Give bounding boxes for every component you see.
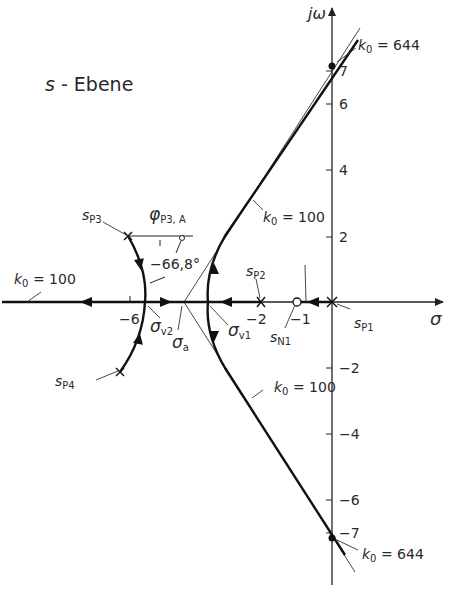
- k0-var: k: [14, 271, 22, 287]
- pole-sp4: [116, 368, 124, 376]
- k0-value: = 644: [372, 37, 419, 53]
- label-sigma-v1: σv1: [228, 322, 251, 341]
- label-sp1: sP1: [354, 316, 374, 333]
- tick-imag-neg6: −6: [339, 493, 360, 507]
- sigma-v1-var: σ: [228, 320, 239, 340]
- tick-imag-2: 2: [339, 230, 348, 244]
- label-departure-angle-symbol: φP3, A: [149, 206, 186, 225]
- zero-sn1: [293, 298, 301, 306]
- tick-imag-neg7: −7: [339, 526, 360, 540]
- title-variable: s: [45, 73, 55, 95]
- label-sp3: sP3: [82, 208, 102, 225]
- label-k0-644-lower: k0 = 644: [362, 547, 424, 564]
- label-sp2-sub: P2: [253, 270, 265, 281]
- sigma-v1-sub: v1: [239, 330, 251, 341]
- label-sigma-v2: σv2: [150, 318, 173, 337]
- label-departure-angle-value: −66,8°: [150, 257, 200, 271]
- sigma-a-var: σ: [172, 332, 183, 352]
- tick-imag-6: 6: [339, 97, 348, 111]
- label-sn1-sub: N1: [277, 336, 291, 347]
- locus-branches: [120, 40, 358, 555]
- imag-axis-label: jω: [308, 6, 326, 22]
- label-sp1-sub: P1: [361, 322, 373, 333]
- phi-sub: P3, A: [160, 214, 186, 225]
- phi-var: φ: [149, 204, 160, 224]
- tick-imag-4: 4: [339, 163, 348, 177]
- leader-lines: [27, 48, 358, 550]
- k0-var: k: [263, 209, 271, 225]
- label-sp4: sP4: [55, 374, 75, 391]
- crossing-point-lower: [329, 535, 336, 542]
- tick-real-neg6: −6: [119, 312, 140, 326]
- k0-value: = 100: [277, 209, 324, 225]
- label-k0-100-lower-branch: k0 = 100: [274, 380, 336, 397]
- k0-var: k: [274, 379, 282, 395]
- real-axis-label: σ: [430, 310, 441, 328]
- label-sigma-a: σa: [172, 334, 189, 353]
- tick-imag-neg4: −4: [339, 427, 360, 441]
- tick-imag-neg2: −2: [339, 361, 360, 375]
- tick-imag-7: 7: [339, 64, 348, 78]
- sigma-a-sub: a: [183, 342, 189, 353]
- label-k0-644-upper: k0 = 644: [358, 38, 420, 55]
- k0-value: = 644: [376, 546, 423, 562]
- k0-var: k: [362, 546, 370, 562]
- label-sp3-sub: P3: [89, 214, 101, 225]
- plane-title: s - Ebene: [45, 75, 133, 94]
- k0-value: = 100: [288, 379, 335, 395]
- title-text: - Ebene: [55, 73, 133, 95]
- k0-value: = 100: [28, 271, 75, 287]
- crossing-point-upper: [329, 63, 336, 70]
- label-k0-100-upper-branch: k0 = 100: [263, 210, 325, 227]
- label-sn1: sN1: [270, 330, 291, 347]
- tick-real-neg1: −1: [290, 312, 311, 326]
- k0-var: k: [358, 37, 366, 53]
- label-k0-100-left: k0 = 100: [14, 272, 76, 289]
- sigma-v2-var: σ: [150, 316, 161, 336]
- label-sp2: sP2: [246, 264, 266, 281]
- label-sp4-sub: P4: [62, 380, 74, 391]
